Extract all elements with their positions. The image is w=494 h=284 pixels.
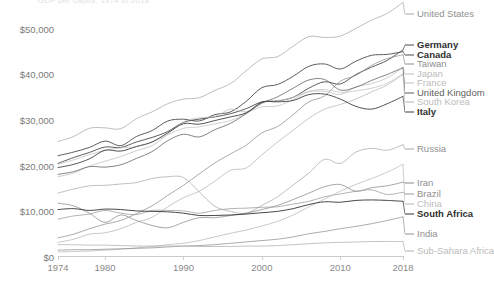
- series-label-russia[interactable]: Russia: [417, 144, 446, 154]
- series-leader-line: [405, 45, 414, 46]
- series-connector: [0, 0, 405, 284]
- series-label-india[interactable]: India: [417, 229, 438, 239]
- series-leader-line: [405, 74, 414, 75]
- series-leader-line: [405, 14, 414, 15]
- series-label-sub-sahara-africa[interactable]: Sub-Sahara Africa: [417, 246, 494, 256]
- series-leader-line: [405, 204, 414, 205]
- series-connector: [0, 0, 405, 284]
- series-leader-line: [405, 55, 414, 56]
- series-leader-line: [405, 112, 414, 113]
- series-connector: [0, 0, 405, 284]
- series-leader-line: [405, 83, 414, 84]
- series-connector: [0, 0, 405, 284]
- series-connector: [0, 0, 405, 284]
- series-leader-line: [405, 183, 414, 184]
- series-connector: [0, 0, 405, 284]
- series-leader-line: [405, 251, 414, 252]
- series-leader-line: [405, 149, 414, 150]
- series-label-iran[interactable]: Iran: [417, 178, 433, 188]
- series-connector: [0, 0, 405, 284]
- series-label-italy[interactable]: Italy: [417, 107, 436, 117]
- series-leader-line: [405, 194, 414, 195]
- series-leader-line: [405, 234, 414, 235]
- series-connector: [0, 0, 405, 284]
- series-connector: [0, 0, 405, 284]
- series-connector: [0, 0, 405, 284]
- series-leader-line: [405, 64, 414, 65]
- series-connector: [0, 0, 405, 284]
- series-connector: [0, 0, 405, 284]
- series-connector: [0, 0, 405, 284]
- series-leader-line: [405, 102, 414, 103]
- series-connector: [0, 0, 405, 284]
- series-label-united-states[interactable]: United States: [417, 9, 474, 19]
- series-connector: [0, 0, 405, 284]
- series-connector: [0, 0, 405, 284]
- series-leader-line: [405, 93, 414, 94]
- series-leader-line: [405, 214, 414, 215]
- series-label-south-africa[interactable]: South Africa: [417, 209, 473, 219]
